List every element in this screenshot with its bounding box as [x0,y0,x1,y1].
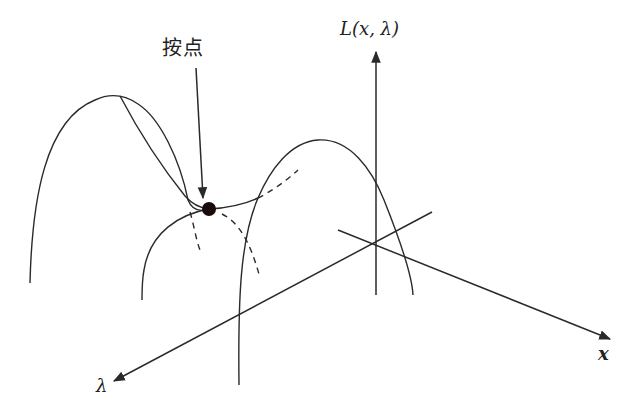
hidden-curve-left [190,212,200,250]
lambda-axis-label: λ [96,375,107,396]
vertical-axis-label: L(x, λ) [340,18,399,39]
saddle-point-marker [202,202,216,216]
saddle-point-label: 按点 [162,32,204,61]
x-axis [338,230,610,339]
saddle-valley-curve [142,209,209,300]
hidden-curve-right [222,214,260,278]
saddle-surface-diagram [0,0,632,413]
left-hump-inner-curve [120,96,209,209]
saddle-ridge-curve [209,198,258,209]
saddle-pointer-arrow [196,68,203,198]
right-hump-curve [239,140,413,385]
left-hump-outer-curve [30,96,138,283]
lambda-axis [114,212,432,381]
x-axis-label: x [598,343,609,364]
